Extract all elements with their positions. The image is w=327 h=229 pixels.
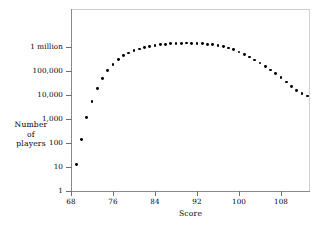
y-tick-label: 1 million	[30, 43, 63, 50]
data-point	[290, 85, 293, 88]
data-point	[143, 46, 146, 49]
y-tick-label: 1	[58, 187, 63, 194]
x-tick-label: 108	[267, 198, 295, 205]
y-tick-mark	[66, 95, 72, 96]
data-point	[285, 81, 288, 84]
x-axis-title: Score	[71, 210, 310, 218]
x-tick-label: 92	[183, 198, 211, 205]
y-axis-line	[71, 9, 72, 192]
y-tick-mark	[66, 119, 72, 120]
data-point	[101, 77, 104, 80]
data-point	[164, 43, 167, 46]
data-point	[196, 42, 199, 45]
data-point	[180, 42, 183, 45]
data-point	[206, 43, 209, 46]
data-point	[264, 65, 267, 68]
x-tick-mark	[113, 191, 114, 196]
chart-figure: 1 million100,00010,0001,000100101 687684…	[0, 0, 327, 229]
x-tick-mark	[281, 191, 282, 196]
y-axis-title-line-1: Number	[2, 120, 60, 130]
plot-frame	[71, 9, 310, 192]
data-point	[222, 45, 225, 48]
y-tick-label: 10,000	[37, 91, 63, 98]
data-point	[243, 53, 246, 56]
y-tick-mark	[66, 71, 72, 72]
x-tick-label: 68	[57, 198, 85, 205]
data-point	[96, 87, 99, 90]
y-tick-label: 100,000	[33, 67, 63, 74]
y-tick-mark	[66, 167, 72, 168]
x-tick-mark	[71, 191, 72, 196]
data-point	[138, 48, 141, 51]
x-tick-label: 84	[141, 198, 169, 205]
x-axis-line	[71, 191, 310, 192]
x-tick-mark	[239, 191, 240, 196]
data-point	[159, 43, 162, 46]
y-tick-mark	[66, 143, 72, 144]
data-point	[295, 89, 298, 92]
x-tick-label: 100	[225, 198, 253, 205]
data-point	[190, 42, 193, 45]
y-tick-mark	[66, 47, 72, 48]
data-point	[201, 42, 204, 45]
y-axis-title-line-2: of	[2, 130, 60, 140]
x-tick-mark	[155, 191, 156, 196]
data-point	[117, 58, 120, 61]
data-point	[75, 163, 78, 166]
x-tick-mark	[197, 191, 198, 196]
y-axis-title-line-3: players	[2, 139, 60, 149]
x-tick-label: 76	[99, 198, 127, 205]
y-tick-label: 10	[54, 163, 63, 170]
y-axis-title: Number of players	[2, 120, 60, 149]
data-point	[148, 45, 151, 48]
